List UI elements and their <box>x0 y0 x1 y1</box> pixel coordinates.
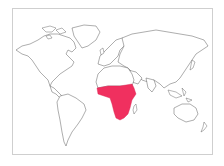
greenland <box>72 25 100 48</box>
australia <box>174 104 198 122</box>
madagascar <box>133 104 137 114</box>
world-map <box>0 0 224 166</box>
north-america <box>16 34 76 86</box>
new-zealand <box>201 122 207 132</box>
southeast-asia-islands <box>168 88 192 102</box>
sub-saharan-africa-highlight <box>97 84 136 120</box>
south-america <box>57 94 86 146</box>
